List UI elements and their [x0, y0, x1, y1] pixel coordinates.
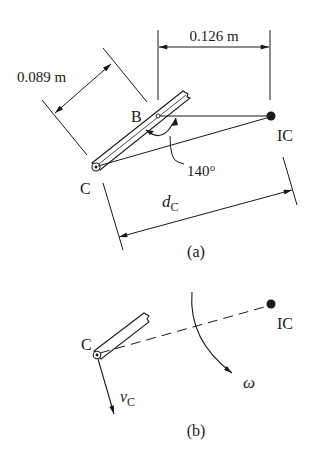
label-ic: IC — [277, 315, 293, 332]
velocity-vector-vc — [98, 359, 114, 414]
diagram-canvas: 0.126 m 0.089 m B C IC 14 — [0, 0, 312, 462]
angular-velocity-arc — [192, 292, 232, 373]
rod-bc — [92, 91, 190, 170]
figure-b: C IC ω vC (b) — [81, 292, 293, 440]
extension-line-ic-dc — [283, 157, 297, 205]
pin-c-center — [95, 166, 98, 169]
label-vc: vC — [120, 388, 135, 409]
label-b: B — [131, 108, 142, 125]
caption-a: (a) — [187, 243, 205, 261]
figure-a: 0.126 m 0.089 m B C IC 14 — [17, 28, 297, 261]
pin-c-center — [96, 354, 99, 357]
extension-line-c-dc — [103, 183, 123, 250]
extension-line-c-oblique — [42, 100, 87, 155]
label-dc: dC — [162, 192, 179, 214]
extension-line-b-oblique — [103, 48, 147, 102]
angle-leader-line — [170, 136, 184, 164]
dimension-label-0089: 0.089 m — [17, 69, 67, 85]
instant-center-dot — [267, 300, 276, 309]
label-c: C — [80, 180, 91, 197]
dimension-arrow — [119, 190, 292, 237]
label-omega: ω — [243, 373, 255, 392]
label-ic: IC — [277, 127, 293, 144]
dimension-label-0126: 0.126 m — [189, 28, 239, 44]
instant-center-dot — [267, 112, 276, 121]
pin-b — [156, 114, 160, 118]
label-c: C — [81, 336, 92, 353]
label-angle-140: 140° — [187, 163, 216, 179]
caption-b: (b) — [187, 422, 206, 440]
